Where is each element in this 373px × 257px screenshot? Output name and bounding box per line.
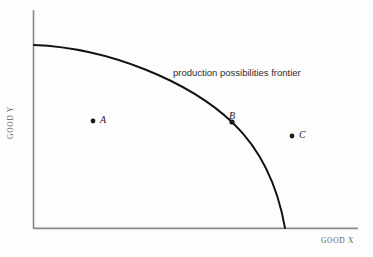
y-axis-label: GOOD Y: [6, 101, 15, 145]
ppf-chart-figure: GOOD Y GOOD X production possibilities f…: [0, 0, 373, 257]
point-marker-c: [290, 134, 295, 139]
x-axis-label: GOOD X: [321, 236, 354, 245]
point-label-c: C: [299, 129, 306, 140]
point-label-b: B: [229, 110, 235, 121]
plot-canvas: [0, 0, 373, 257]
frontier-annotation-label: production possibilities frontier: [173, 67, 301, 78]
point-label-a: A: [100, 114, 106, 125]
point-marker-a: [91, 119, 96, 124]
